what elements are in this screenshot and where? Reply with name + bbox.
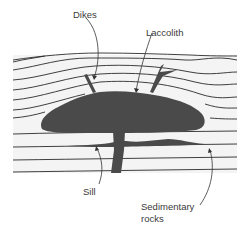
label-dikes: Dikes	[73, 9, 97, 20]
label-sedimentary-line1: Sedimentary	[141, 201, 194, 212]
label-sill: Sill	[83, 186, 96, 197]
intrusion-diagram: Dikes Laccolith Sill Sedimentary rocks	[0, 0, 248, 235]
diagram-canvas	[0, 0, 248, 235]
label-laccolith: Laccolith	[146, 27, 184, 38]
label-sedimentary-line2: rocks	[141, 213, 164, 224]
